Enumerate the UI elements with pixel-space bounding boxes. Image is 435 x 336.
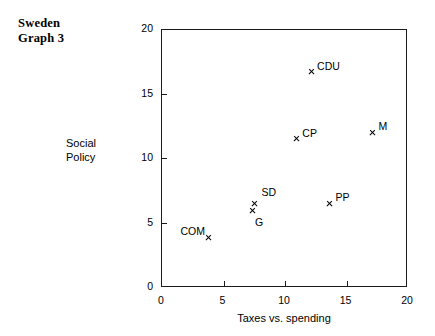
x-axis-tick-label: 5	[208, 294, 238, 306]
y-axis-tick-label: 5	[123, 216, 153, 228]
x-axis-tick	[224, 281, 225, 286]
data-point-label: CP	[302, 128, 317, 139]
x-axis-tick	[347, 281, 348, 286]
data-point-label: CDU	[317, 61, 340, 72]
y-axis-tick	[162, 94, 167, 95]
plot-area	[161, 29, 407, 287]
y-axis-tick-label: 20	[123, 22, 153, 34]
data-point-label: G	[255, 217, 263, 228]
x-axis-tick-label: 10	[269, 294, 299, 306]
data-point-marker	[293, 135, 300, 142]
chart-title-block: Sweden Graph 3	[18, 16, 64, 45]
chart-page: Sweden Graph 3 Social Policy Taxes vs. s…	[0, 0, 435, 336]
x-axis-tick-label: 20	[392, 294, 422, 306]
x-axis-title: Taxes vs. spending	[161, 312, 407, 324]
y-axis-title-line1: Social	[66, 137, 96, 151]
data-point-marker	[249, 207, 256, 214]
data-point-label: M	[379, 121, 388, 132]
x-axis-tick	[285, 281, 286, 286]
x-axis-tick-label: 0	[146, 294, 176, 306]
data-point-marker	[369, 129, 376, 136]
y-axis-title-line2: Policy	[66, 151, 96, 165]
title-line-country: Sweden	[18, 16, 64, 31]
y-axis-tick-label: 10	[123, 151, 153, 163]
data-point-marker	[326, 200, 333, 207]
data-point-marker	[308, 68, 315, 75]
x-axis-tick-label: 15	[331, 294, 361, 306]
data-point-label: SD	[261, 187, 276, 198]
y-axis-tick	[162, 158, 167, 159]
y-axis-tick	[162, 223, 167, 224]
data-point-label: PP	[336, 192, 350, 203]
data-point-marker	[251, 200, 258, 207]
title-line-graph-number: Graph 3	[18, 31, 64, 46]
y-axis-tick-label: 0	[123, 280, 153, 292]
y-axis-tick-label: 15	[123, 87, 153, 99]
data-point-label: COM	[180, 226, 205, 237]
y-axis-title: Social Policy	[66, 137, 96, 164]
data-point-marker	[205, 234, 212, 241]
